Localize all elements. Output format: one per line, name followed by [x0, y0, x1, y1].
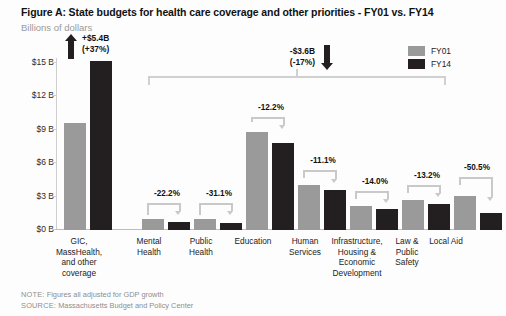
bar-fy01-infrastructure[interactable] [350, 206, 372, 230]
category-line: and other [42, 257, 116, 268]
change-connector-law-public-safety [407, 181, 441, 197]
note-key: NOTE: [21, 290, 45, 299]
bar-fy14-human-services[interactable] [324, 190, 346, 230]
bar-fy14-infrastructure[interactable] [376, 209, 398, 230]
category-line: Services [280, 247, 330, 258]
note-text: Figures all adjusted for GDP growth [47, 290, 164, 299]
category-label-public-health: Public Health [176, 236, 226, 257]
source-text: Massachusetts Budget and Policy Center [58, 301, 193, 310]
category-label-infrastructure: Infrastructure, Housing & Economic Devel… [326, 236, 388, 278]
change-connector-local-aid [459, 173, 493, 193]
change-connector-education [251, 113, 285, 129]
bar-fy14-mental-health[interactable] [168, 222, 190, 230]
category-label-law-public-safety: Law & Public Safety [385, 236, 429, 268]
bar-fy01-education[interactable] [246, 132, 268, 230]
category-line: Public [385, 247, 429, 258]
pct-label-law-public-safety: -13.2% [396, 171, 458, 180]
legend-item-fy14[interactable]: FY14 [408, 59, 451, 69]
category-line: Public [176, 236, 226, 247]
bar-fy01-public-health[interactable] [194, 219, 216, 230]
category-line: Local Aid [424, 236, 468, 247]
bar-fy01-local-aid[interactable] [454, 196, 476, 230]
increase-amount-label: +$5.4B [82, 33, 109, 43]
change-connector-public-health [199, 199, 233, 215]
bar-fy01-mental-health[interactable] [142, 219, 164, 230]
increase-arrow-icon [64, 34, 78, 59]
category-label-gic: GIC, MassHealth, and other coverage [42, 236, 116, 278]
pct-label-local-aid: -50.5% [446, 163, 506, 172]
category-line: Human [280, 236, 330, 247]
pct-label-human-services: -11.1% [292, 156, 354, 165]
category-line: Health [176, 247, 226, 258]
change-connector-infrastructure [355, 187, 389, 203]
bar-fy01-human-services[interactable] [298, 185, 320, 230]
category-line: Mental [124, 236, 174, 247]
category-line: Health [124, 247, 174, 258]
chart-title: Figure A: State budgets for health care … [21, 6, 433, 18]
bar-fy14-gic[interactable] [90, 61, 112, 230]
category-line: GIC, [42, 236, 116, 247]
y-tick-label-15: $15 B [32, 57, 54, 67]
bar-fy14-public-health[interactable] [220, 223, 242, 230]
bar-group-gic [64, 58, 114, 230]
category-line: coverage [42, 268, 116, 279]
change-connector-human-services [303, 166, 337, 182]
legend: FY01 FY14 [408, 46, 451, 72]
category-label-local-aid: Local Aid [424, 236, 468, 247]
bar-fy14-local-aid[interactable] [480, 213, 502, 230]
legend-swatch-fy01 [408, 46, 425, 56]
note-line: NOTE: Figures all adjusted for GDP growt… [21, 290, 164, 299]
category-line: Safety [385, 257, 429, 268]
bar-fy01-gic[interactable] [64, 123, 86, 230]
category-line: Infrastructure, [326, 236, 388, 247]
category-line: Law & [385, 236, 429, 247]
category-line: Housing & [326, 247, 388, 258]
bar-fy14-law-public-safety[interactable] [428, 204, 450, 230]
decrease-arrow-icon [320, 45, 334, 70]
legend-label-fy14: FY14 [431, 59, 451, 69]
legend-swatch-fy14 [408, 59, 425, 69]
category-line: Economic [326, 257, 388, 268]
pct-label-public-health: -31.1% [188, 189, 250, 198]
bar-group-local-aid: -50.5% [454, 58, 504, 230]
legend-label-fy01: FY01 [431, 46, 451, 56]
legend-item-fy01[interactable]: FY01 [408, 46, 451, 56]
source-key: SOURCE: [21, 301, 56, 310]
decrease-amount-label: -$3.6B [265, 46, 315, 56]
category-line: Development [326, 268, 388, 279]
bar-fy01-law-public-safety[interactable] [402, 200, 424, 230]
y-tick-label-12: $12 B [32, 90, 54, 100]
change-connector-mental-health [147, 199, 181, 215]
source-line: SOURCE: Massachusetts Budget and Policy … [21, 301, 193, 310]
decline-bracket [148, 76, 446, 85]
category-line: Education [225, 236, 281, 247]
category-label-education: Education [225, 236, 281, 247]
category-line: MassHealth, [42, 247, 116, 258]
category-label-human-services: Human Services [280, 236, 330, 257]
category-label-mental-health: Mental Health [124, 236, 174, 257]
increase-percent-label: (+37%) [82, 44, 109, 54]
decrease-percent-label: (-17%) [265, 57, 315, 67]
pct-label-education: -12.2% [240, 103, 302, 112]
bar-fy14-education[interactable] [272, 143, 294, 230]
